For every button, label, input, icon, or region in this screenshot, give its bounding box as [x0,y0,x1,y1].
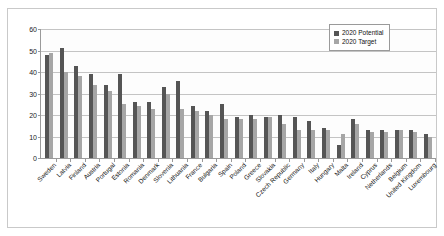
bar-target [122,104,126,158]
legend-swatch-target [334,39,339,44]
bar-target [413,132,417,158]
y-axis-tick-label: 20 [29,112,37,119]
y-axis-tick-label: 30 [29,90,37,97]
chart-container: 0102030405060 SwedenLatviaFinlandAustria… [0,0,444,236]
bar-group [115,29,130,158]
bar-group [260,29,275,158]
bar-group [231,29,246,158]
bar-target [282,124,286,158]
bar-target [224,119,228,158]
bar-target [151,109,155,158]
bar-group [392,29,407,158]
bar-group [71,29,86,158]
legend-item-potential: 2020 Potential [334,30,384,37]
bar-group [202,29,217,158]
bar-target [78,76,82,158]
x-axis-labels: SwedenLatviaFinlandAustriaPortugalEstoni… [40,162,436,234]
y-axis-tick-label: 10 [29,133,37,140]
bar-group [406,29,421,158]
chart-legend: 2020 Potential 2020 Target [329,24,390,51]
bar-target [108,91,112,158]
chart-frame: 0102030405060 SwedenLatviaFinlandAustria… [7,8,437,228]
bar-group [246,29,261,158]
bar-target [311,130,315,158]
bar-group [188,29,203,158]
bar-target [180,109,184,158]
bar-group [86,29,101,158]
bar-target [428,137,432,159]
bar-target [384,132,388,158]
bar-group [129,29,144,158]
bar-group [144,29,159,158]
bar-target [399,130,403,158]
legend-label-potential: 2020 Potential [342,30,384,37]
bar-target [268,117,272,158]
bar-target [93,85,97,158]
bar-target [370,132,374,158]
bar-target [239,119,243,158]
bar-target [166,94,170,159]
bar-group [159,29,174,158]
y-axis-tick-label: 60 [29,26,37,33]
bar-group [304,29,319,158]
bar-target [253,119,257,158]
bar-group [217,29,232,158]
bar-target [64,72,68,158]
bar-target [355,124,359,158]
bar-group [275,29,290,158]
legend-label-target: 2020 Target [342,39,376,46]
bar-target [137,106,141,158]
bar-target [341,134,345,158]
bar-target [297,130,301,158]
legend-swatch-potential [334,31,339,36]
y-axis-tick-label: 40 [29,69,37,76]
bar-target [209,115,213,158]
bar-group [290,29,305,158]
y-axis-tick-label: 0 [33,155,37,162]
bar-group [42,29,57,158]
bar-group [421,29,436,158]
bar-target [195,111,199,158]
bar-target [326,130,330,158]
bar-target [49,53,53,158]
legend-item-target: 2020 Target [334,39,384,46]
bar-group [100,29,115,158]
bar-group [57,29,72,158]
y-axis-tick-label: 50 [29,47,37,54]
bar-group [173,29,188,158]
